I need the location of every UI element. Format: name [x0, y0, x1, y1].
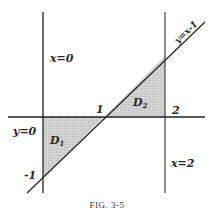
- tick-label-2: 2: [171, 104, 180, 117]
- tick-label-1: 1: [96, 103, 104, 116]
- label-x-equals-0: x=0: [49, 52, 74, 65]
- label-y-equals-x-minus-1: y=x-1: [172, 19, 200, 46]
- figure-3-5: x=0 x=2 y=0 y=x-1 1 2 -1 D1 D2 FIG. 3-5: [0, 0, 215, 214]
- label-y-equals-0: y=0: [12, 125, 37, 138]
- figure-caption: FIG. 3-5: [90, 200, 125, 210]
- tick-label-minus-1: -1: [24, 169, 36, 182]
- label-x-equals-2: x=2: [170, 157, 195, 170]
